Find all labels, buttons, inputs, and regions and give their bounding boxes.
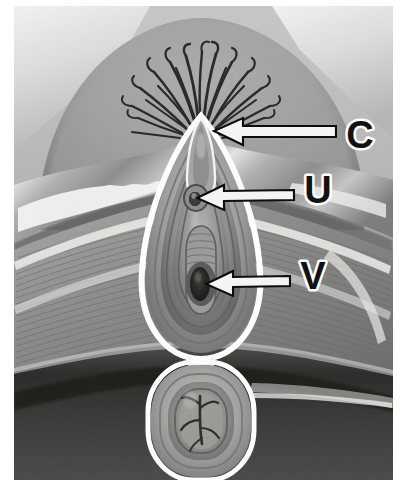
anatomical-figure: C U V bbox=[0, 0, 403, 486]
label-u: U bbox=[304, 169, 331, 211]
illustration-body: C U V bbox=[14, 6, 393, 480]
film-grain bbox=[14, 6, 393, 480]
illustration-canvas: C U V bbox=[0, 0, 403, 486]
label-v: V bbox=[300, 255, 326, 297]
label-c: C bbox=[346, 114, 373, 156]
